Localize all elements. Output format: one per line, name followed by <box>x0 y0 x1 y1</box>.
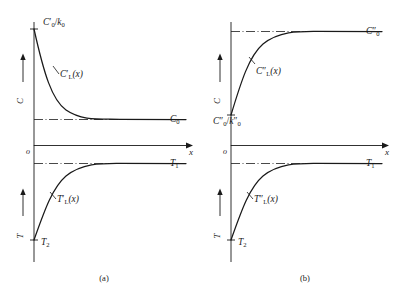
figure-svg: C o x C′0/k0 C′L(x) C0 <box>0 0 402 296</box>
panel-a-c-curve <box>34 29 186 120</box>
panel-a: C o x C′0/k0 C′L(x) C0 <box>15 17 193 283</box>
panel-a-origin-label: o <box>26 147 30 156</box>
panel-b-c-asymptote-label: C″0 <box>366 26 380 37</box>
panel-b-c-start-label: C″0/k″0 <box>213 116 241 127</box>
panel-b: C o x C″0 C″L(x) C″0/k″0 <box>212 22 389 283</box>
panel-a-c-start-label: C′0/k0 <box>43 17 66 28</box>
panel-b-temperature-plot: T T1 T″L(x) T2 <box>212 146 382 263</box>
panel-a-t-curve-label: T′L(x) <box>57 194 79 205</box>
panel-a-temperature-plot: T T1 T′L(x) T2 <box>15 146 186 263</box>
panel-b-t-curve-label: T″L(x) <box>254 194 278 205</box>
panel-b-t-axis-arrowhead <box>217 189 222 196</box>
panel-b-c-axis-arrowhead <box>217 54 222 61</box>
panel-b-c-x-axis-label: x <box>384 147 389 157</box>
panel-b-c-axis-label-group: C <box>212 54 223 105</box>
panel-b-c-curve-label: C″L(x) <box>256 66 281 77</box>
panel-b-c-axis-label: C <box>212 97 222 104</box>
panel-a-t-asymptote-label: T1 <box>170 158 179 169</box>
panel-a-c-curve-label: C′L(x) <box>60 69 83 80</box>
panel-a-c-curve-label-leader <box>53 66 59 74</box>
figure-container: C o x C′0/k0 C′L(x) C0 <box>0 0 402 296</box>
panel-a-c-axis-arrowhead <box>20 54 25 61</box>
panel-b-t-asymptote-label: T1 <box>366 158 375 169</box>
panel-a-concentration-plot: C o x C′0/k0 C′L(x) C0 <box>15 17 193 157</box>
panel-a-t-axis-label-group: T <box>15 189 26 239</box>
panel-a-c-x-axis-label: x <box>188 147 193 157</box>
panel-b-caption: (b) <box>300 273 310 283</box>
panel-a-caption: (a) <box>99 273 109 283</box>
panel-a-t-axis-label: T <box>15 233 25 239</box>
panel-a-c-axis-label-group: C <box>15 54 26 105</box>
panel-b-t-axis-label: T <box>212 233 222 239</box>
panel-a-c-asymptote-label: C0 <box>170 114 180 125</box>
panel-b-c-curve <box>231 31 382 115</box>
panel-b-concentration-plot: C o x C″0 C″L(x) C″0/k″0 <box>212 22 389 157</box>
panel-b-t-start-label: T2 <box>238 237 247 248</box>
panel-b-t-axis-label-group: T <box>212 189 223 239</box>
panel-b-origin-label: o <box>223 147 227 156</box>
panel-a-t-axis-arrowhead <box>20 189 25 196</box>
panel-a-c-axis-label: C <box>15 97 25 104</box>
panel-a-t-start-label: T2 <box>41 237 50 248</box>
